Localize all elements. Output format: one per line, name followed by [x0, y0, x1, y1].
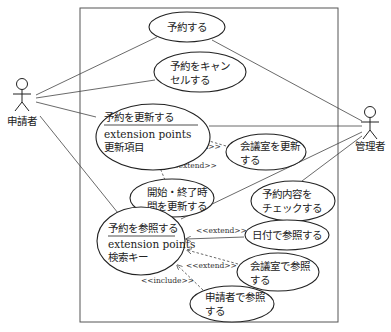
- use-case-label-line2: チェックする: [262, 202, 322, 214]
- use-case-view-applicant[interactable]: 申請者で参照 する: [190, 286, 274, 322]
- actor-head: [365, 107, 376, 118]
- use-case-label-line2: セルする: [170, 74, 210, 86]
- use-case-update[interactable]: 予約を更新する extension points 更新項目: [96, 104, 210, 170]
- extension-point: 更新項目: [104, 141, 144, 153]
- actor-applicant-label: 申請者: [7, 115, 37, 127]
- use-case-view-date[interactable]: 日付で参照する: [245, 220, 329, 250]
- extend-label-view-room: <<extend>>: [186, 261, 237, 270]
- actor-applicant: [13, 79, 31, 112]
- extension-points-label: extension points: [108, 238, 195, 250]
- use-case-label-line2: する: [205, 305, 225, 317]
- use-case-reserve[interactable]: 予約する: [149, 12, 225, 42]
- extension-points-label: extension points: [104, 128, 191, 140]
- use-case-view[interactable]: 予約を参照する extension points 検索キー: [97, 207, 195, 275]
- use-case-update-room[interactable]: 会議室を更新 する: [226, 134, 306, 170]
- use-case-label: 予約する: [167, 21, 207, 33]
- use-case-cancel[interactable]: 予約をキャン セルする: [154, 52, 246, 92]
- use-case-diagram: 申請者 管理者 <<extend>> <<extend>> <<extend>>…: [0, 0, 391, 332]
- use-case-check[interactable]: 予約内容を チェックする: [251, 181, 335, 221]
- use-case-label-line2: する: [240, 154, 260, 166]
- use-case-view-room[interactable]: 会議室で参照 する: [237, 253, 319, 291]
- use-case-label-line1: 会議室で参照: [250, 260, 311, 272]
- include-label-view-applicant: <<include>>: [141, 276, 194, 285]
- actor-head: [17, 79, 28, 90]
- extension-point: 検索キー: [108, 251, 148, 263]
- use-case-label-line1: 申請者で参照: [205, 291, 266, 303]
- use-case-label-line1: 会議室を更新: [240, 140, 301, 152]
- use-case-label-line1: 予約内容を: [262, 188, 312, 200]
- use-case-label-line1: 予約をキャン: [170, 60, 230, 72]
- use-case-title: 予約を参照する: [108, 222, 178, 234]
- use-case-label-line2: する: [250, 274, 270, 286]
- use-case-label: 日付で参照する: [252, 229, 322, 241]
- use-case-label-line1: 開始・終了時: [147, 186, 208, 198]
- actor-admin-label: 管理者: [355, 140, 385, 152]
- use-case-title: 予約を更新する: [104, 111, 174, 123]
- actor-admin: [361, 107, 379, 140]
- extend-label-view-date: <<extend>>: [196, 226, 247, 235]
